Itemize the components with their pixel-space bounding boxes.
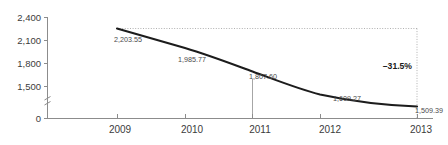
point-label-2013: 1,509.39 bbox=[415, 106, 443, 115]
y-axis: 2,400 2,100 1,800 1,500 0 bbox=[17, 12, 50, 124]
point-label-2009: 2,203.55 bbox=[114, 35, 142, 44]
x-axis: 2009 2010 2011 2012 2013 bbox=[48, 114, 434, 135]
x-tick-label-2010: 2010 bbox=[181, 124, 204, 135]
point-label-2011: 1,807.60 bbox=[249, 72, 277, 81]
data-series bbox=[117, 29, 417, 107]
line-chart: 2,400 2,100 1,800 1,500 0 2009 2010 2011… bbox=[0, 0, 448, 145]
y-tick-label-1500: 1,500 bbox=[17, 81, 41, 92]
y-tick-label-1800: 1,800 bbox=[17, 58, 41, 69]
point-label-2010: 1,985.77 bbox=[178, 55, 206, 64]
x-tick-label-2009: 2009 bbox=[109, 124, 132, 135]
y-tick-label-2100: 2,100 bbox=[17, 35, 41, 46]
series-line-path bbox=[117, 29, 417, 107]
y-tick-label-0: 0 bbox=[36, 113, 41, 124]
chart-canvas: 2,400 2,100 1,800 1,500 0 2009 2010 2011… bbox=[0, 0, 448, 145]
x-tick-label-2013: 2013 bbox=[410, 124, 433, 135]
total-change-annotation: –31.5% bbox=[383, 61, 413, 71]
y-tick-label-2400: 2,400 bbox=[17, 12, 41, 23]
x-tick-label-2012: 2012 bbox=[319, 124, 342, 135]
data-point-labels: 2,203.55 1,985.77 1,807.60 1,609.27 1,50… bbox=[114, 35, 443, 115]
point-label-2012: 1,609.27 bbox=[333, 94, 361, 103]
total-change-label: –31.5% bbox=[383, 61, 413, 71]
x-tick-label-2011: 2011 bbox=[249, 124, 271, 135]
